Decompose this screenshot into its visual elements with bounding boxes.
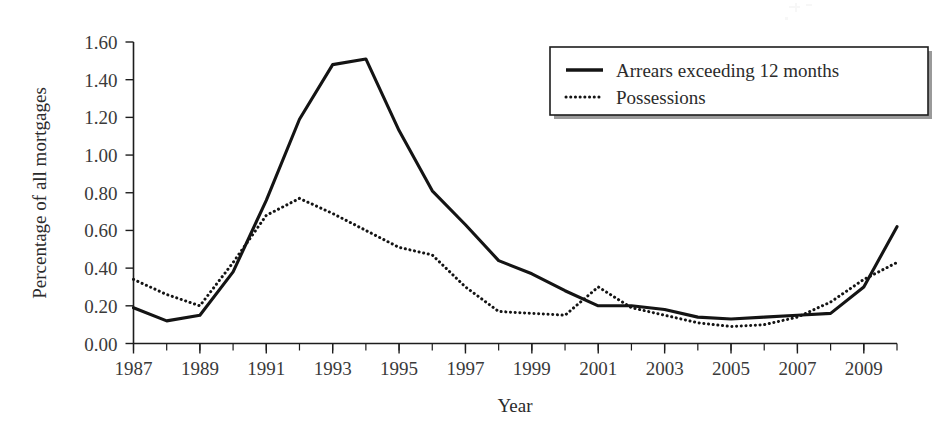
y-tick-label: 1.40 xyxy=(84,70,117,91)
legend-box xyxy=(550,47,928,115)
x-tick-label: 1991 xyxy=(247,358,285,379)
x-tick-label: 1987 xyxy=(115,358,153,379)
x-tick-label: 2003 xyxy=(646,358,684,379)
x-tick-label: 1997 xyxy=(446,358,484,379)
x-tick-label: 1989 xyxy=(181,358,219,379)
x-tick-label: 1993 xyxy=(314,358,352,379)
y-tick-label: 1.20 xyxy=(84,107,117,128)
x-tick-label: 1999 xyxy=(513,358,551,379)
x-axis-title: Year xyxy=(497,395,533,416)
x-tick-label: 2005 xyxy=(712,358,750,379)
y-tick-label: 0.20 xyxy=(84,296,117,317)
y-tick-label: 1.00 xyxy=(84,145,117,166)
legend: Arrears exceeding 12 months Possessions xyxy=(550,47,932,119)
y-tick-label: 0.80 xyxy=(84,183,117,204)
y-axis-tick-labels: 0.000.200.400.600.801.001.201.401.60 xyxy=(84,32,117,355)
y-tick-label: 0.60 xyxy=(84,220,117,241)
x-tick-label: 2001 xyxy=(579,358,617,379)
x-tick-label: 2009 xyxy=(845,358,883,379)
y-tick-label: 0.00 xyxy=(84,334,117,355)
x-tick-label: 2007 xyxy=(778,358,816,379)
mortgage-arrears-chart-figure: 0.000.200.400.600.801.001.201.401.60 198… xyxy=(0,0,939,435)
legend-label-arrears: Arrears exceeding 12 months xyxy=(616,60,839,81)
legend-label-possessions: Possessions xyxy=(616,87,706,108)
line-chart-svg: 0.000.200.400.600.801.001.201.401.60 198… xyxy=(0,0,939,435)
y-tick-label: 0.40 xyxy=(84,258,117,279)
x-tick-label: 1995 xyxy=(380,358,418,379)
y-tick-label: 1.60 xyxy=(84,32,117,53)
y-axis-title: Percentage of all mortgages xyxy=(29,87,50,299)
